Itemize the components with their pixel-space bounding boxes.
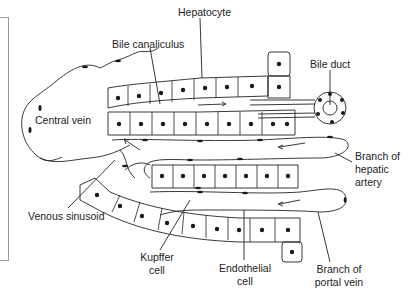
label-hepatocyte: Hepatocyte (178, 6, 231, 18)
label-endothelial-line1: Endothelial (213, 262, 277, 274)
label-central-vein: Central vein (35, 114, 91, 126)
label-venous-sinusoid: Venous sinusoid (28, 210, 104, 222)
label-hepatic-artery-line2: hepatic (355, 163, 389, 175)
label-endothelial-line2: cell (213, 275, 277, 287)
label-hepatic-artery-line1: Branch of (355, 150, 400, 162)
label-portal-vein-line2: portal vein (306, 276, 372, 288)
label-bile-canaliculus: Bile canaliculus (112, 38, 184, 50)
label-portal-vein-line1: Branch of (306, 263, 372, 275)
label-kupffer-line2: cell (132, 264, 182, 276)
label-hepatic-artery-line3: artery (355, 176, 382, 188)
label-bile-duct: Bile duct (310, 58, 350, 70)
label-kupffer-line1: Kupffer (132, 251, 182, 263)
liver-lobule-diagram (0, 0, 412, 293)
